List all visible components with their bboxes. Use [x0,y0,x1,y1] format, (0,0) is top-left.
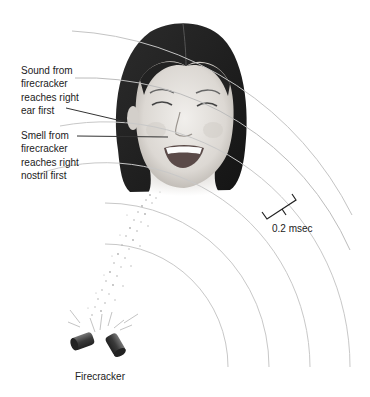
smell-label-line: firecracker [21,142,79,155]
head-illustration [116,23,247,196]
firecracker-label: Firecracker [75,370,125,383]
sound-label-line: firecracker [21,77,79,90]
firecracker-illustration [68,310,138,359]
diagram: Sound from firecracker reaches right ear… [0,0,370,397]
sound-label-line: ear first [21,104,79,117]
smell-label-line: Smell from [21,129,79,142]
smell-label: Smell from firecracker reaches right nos… [21,129,79,182]
spark-lines [68,310,138,332]
smell-label-line: reaches right [21,156,79,169]
diagram-canvas [0,0,370,397]
sound-label: Sound from firecracker reaches right ear… [21,64,79,117]
smell-label-line: nostril first [21,169,79,182]
sound-label-line: reaches right [21,91,79,104]
sound-label-line: Sound from [21,64,79,77]
odor-particles [87,191,160,315]
right-ear [127,106,139,130]
scale-label: 0.2 msec [272,222,313,235]
